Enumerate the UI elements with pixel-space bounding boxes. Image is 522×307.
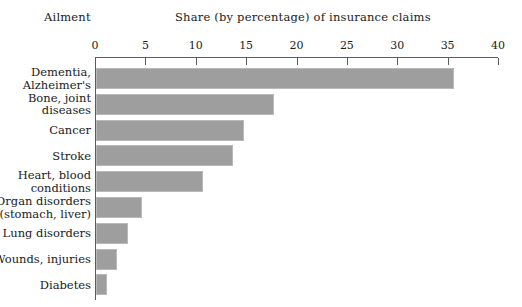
x-axis-tick-label: 20 (290, 39, 304, 52)
bar (96, 274, 107, 295)
x-axis-tick-label: 5 (142, 39, 149, 52)
x-axis-tick-mark (297, 58, 298, 65)
x-axis-tick-mark (448, 58, 449, 65)
bar (96, 197, 142, 218)
x-axis-tick-mark (145, 58, 146, 65)
x-axis-tick-label: 10 (189, 39, 203, 52)
category-axis-title: Ailment (44, 10, 91, 24)
x-axis-tick-label: 0 (92, 39, 99, 52)
x-axis-tick-label: 30 (390, 39, 404, 52)
x-axis-tick-mark (347, 58, 348, 65)
x-axis-tick-mark (397, 58, 398, 65)
bar (96, 171, 203, 192)
category-label: Organ disorders (stomach, liver) (0, 195, 91, 220)
category-label: Dementia, Alzheimer's (0, 66, 91, 91)
x-axis-tick-mark (246, 58, 247, 65)
bar (96, 120, 244, 141)
category-label: Bone, joint diseases (0, 92, 91, 117)
bar (96, 145, 233, 166)
x-axis-tick-mark (498, 58, 499, 65)
plot-area: 0510152025303540 (95, 57, 498, 300)
x-axis-tick-mark (196, 58, 197, 65)
chart-title: Share (by percentage) of insurance claim… (175, 10, 431, 24)
category-label: Diabetes (0, 279, 91, 292)
x-axis-tick-label: 35 (441, 39, 455, 52)
x-axis-tick-mark (95, 58, 96, 65)
insurance-claims-bar-chart: Ailment Share (by percentage) of insuran… (0, 0, 522, 307)
category-label: Cancer (0, 124, 91, 137)
bar (96, 249, 117, 270)
x-axis-tick-label: 15 (239, 39, 253, 52)
x-axis-tick-label: 25 (340, 39, 354, 52)
category-label: Wounds, injuries (0, 253, 91, 266)
category-label: Stroke (0, 150, 91, 163)
x-axis-tick-label: 40 (491, 39, 505, 52)
category-label: Heart, blood conditions (0, 169, 91, 194)
bar (96, 68, 454, 89)
bar (96, 223, 128, 244)
bar (96, 94, 274, 115)
category-label: Lung disorders (0, 227, 91, 240)
